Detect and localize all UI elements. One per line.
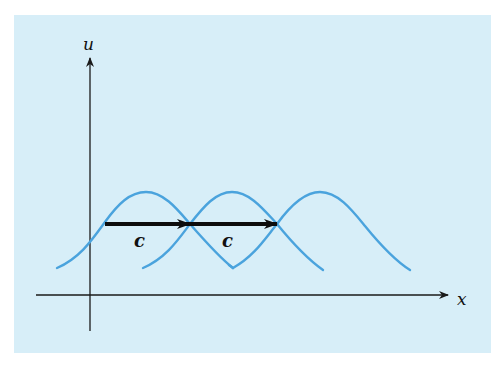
y-axis-label: u	[83, 34, 94, 54]
x-axis-label: x	[457, 289, 467, 309]
arrow-label-2: c	[222, 230, 233, 251]
wave-diagram: u x c c	[0, 0, 502, 376]
arrow-label-1: c	[134, 230, 145, 251]
